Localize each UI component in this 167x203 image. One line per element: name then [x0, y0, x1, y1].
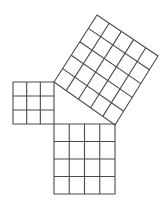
- pythagorean-diagram: [0, 0, 167, 203]
- large-square-5x5: [54, 15, 158, 125]
- small-square-3x3: [13, 82, 54, 124]
- medium-square-4x4: [54, 124, 115, 194]
- square-outline: [13, 82, 54, 124]
- square-outline: [54, 15, 158, 125]
